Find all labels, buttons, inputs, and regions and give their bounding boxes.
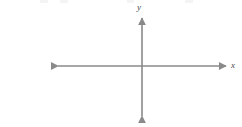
coordinate-axes-plot — [0, 0, 242, 127]
figure-canvas: y x — [0, 0, 242, 127]
y-axis-label: y — [137, 3, 141, 12]
x-axis-label: x — [231, 61, 235, 70]
